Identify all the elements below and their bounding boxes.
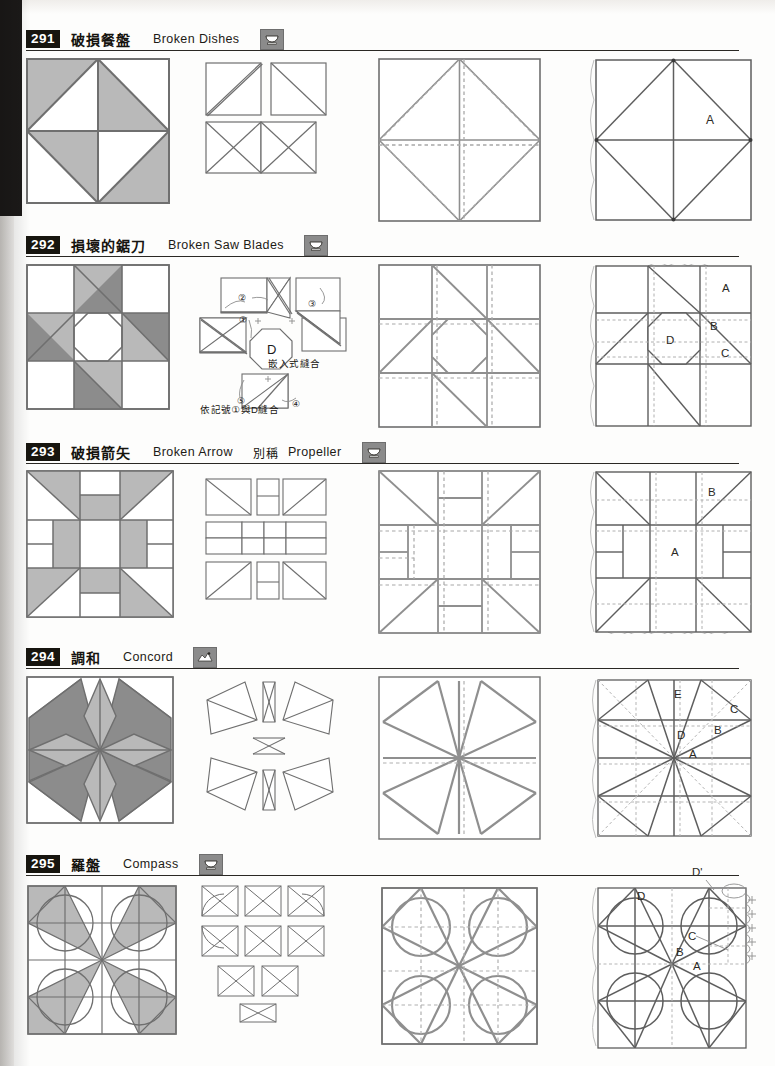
construction-diagram-293 — [378, 470, 541, 634]
template-label: A — [671, 546, 679, 558]
cup-icon — [199, 854, 223, 875]
entry-rule-291 — [26, 50, 739, 51]
svg-text:①: ① — [239, 315, 247, 325]
template-label: D' — [692, 866, 703, 878]
template-label: E — [674, 688, 682, 700]
alias-name: Propeller — [288, 445, 342, 459]
construction-diagram-291 — [378, 58, 541, 222]
landscape-icon — [193, 647, 217, 668]
colored-block-291 — [26, 58, 170, 204]
colored-block-295 — [26, 884, 178, 1036]
entry-rule-294 — [26, 668, 739, 669]
entry-number-badge: 294 — [26, 648, 60, 666]
annotation-sew-order: 依記號①與D縫合 — [200, 402, 279, 416]
template-label: A — [693, 960, 701, 972]
entry-name-chinese: 破損餐盤 — [71, 29, 131, 49]
template-label: C — [688, 930, 696, 942]
entry-name-english: Broken Arrow — [153, 445, 233, 459]
entry-name-english: Concord — [123, 650, 173, 664]
piecing-units-295 — [200, 884, 335, 1024]
entry-name-english: Broken Dishes — [153, 32, 240, 46]
template-label: A — [706, 113, 714, 127]
entry-name-english: Broken Saw Blades — [168, 238, 284, 252]
template-label: A — [689, 748, 697, 760]
entry-header-294: 294 調和 Concord — [26, 646, 217, 668]
cup-icon — [304, 235, 328, 256]
svg-text:③: ③ — [308, 299, 316, 309]
entry-name-chinese: 損壞的鋸刀 — [71, 235, 146, 255]
template-label: B — [676, 946, 684, 958]
template-label: C — [721, 347, 729, 359]
template-label: A — [722, 282, 730, 294]
template-label: D — [637, 890, 645, 902]
template-label: B — [708, 486, 716, 498]
colored-block-293 — [26, 470, 174, 618]
svg-text:D: D — [267, 342, 276, 357]
construction-diagram-294 — [378, 676, 541, 840]
template-diagram-291: A — [588, 58, 766, 222]
piecing-units-293 — [205, 478, 327, 600]
entry-number-badge: 291 — [26, 30, 60, 48]
entry-number-badge: 293 — [26, 443, 60, 461]
entry-number-badge: 292 — [26, 236, 60, 254]
template-diagram-295: D' D C B A — [588, 860, 774, 1050]
entry-header-292: 292 損壞的鋸刀 Broken Saw Blades — [26, 234, 328, 256]
template-diagram-293: B A — [588, 470, 766, 634]
entry-name-chinese: 破損箭矢 — [71, 442, 131, 462]
piecing-units-294 — [205, 680, 335, 812]
entry-rule-292 — [26, 256, 739, 257]
entry-header-293: 293 破損箭矢 Broken Arrow 別稱 Propeller — [26, 441, 386, 463]
template-label: B — [710, 320, 718, 332]
entry-number-badge: 295 — [26, 855, 60, 873]
template-diagram-292: A B C D — [588, 264, 766, 428]
construction-diagram-292 — [378, 264, 541, 428]
colored-block-294 — [26, 676, 174, 824]
piecing-units-291 — [205, 62, 330, 174]
entry-header-295: 295 羅盤 Compass — [26, 853, 223, 875]
entry-name-chinese: 調和 — [71, 647, 101, 667]
svg-text:④: ④ — [292, 399, 300, 409]
template-label: B — [714, 724, 722, 736]
cup-icon — [362, 442, 386, 463]
entry-name-chinese: 羅盤 — [71, 854, 101, 874]
annotation-inset-seam: 嵌入式縫合 — [268, 356, 321, 370]
colored-block-292 — [26, 264, 170, 410]
scan-edge-top — [0, 0, 775, 14]
entry-rule-293 — [26, 463, 739, 464]
template-diagram-294: E C B D A — [588, 676, 766, 840]
template-label: D — [666, 334, 674, 346]
construction-diagram-295 — [378, 884, 541, 1048]
template-label: C — [730, 703, 738, 715]
cup-icon — [260, 29, 284, 50]
template-label: D — [677, 729, 685, 741]
entry-header-291: 291 破損餐盤 Broken Dishes — [26, 28, 284, 50]
alias-label: 別稱 — [253, 444, 279, 461]
entry-name-english: Compass — [123, 857, 179, 871]
